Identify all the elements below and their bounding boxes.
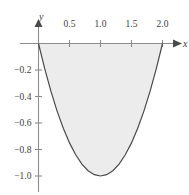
x-tick-label: 0.5 (64, 19, 76, 29)
y-tick-label: −0.6 (14, 118, 31, 128)
y-tick-label: −0.2 (14, 65, 31, 75)
x-tick-label: 1.5 (126, 19, 138, 29)
y-tick-label: −0.4 (14, 92, 31, 102)
y-tick-label: −1.0 (14, 171, 31, 181)
x-axis-label: x (183, 38, 187, 49)
y-tick-label: −0.8 (14, 145, 31, 155)
y-axis-label: y (39, 11, 43, 22)
x-tick-label: 1.0 (95, 19, 107, 29)
x-tick-label: 2.0 (157, 19, 169, 29)
x-axis-arrow-icon (173, 40, 182, 48)
figure-container: 0.51.01.52.0 −0.2−0.4−0.6−0.8−1.0 x y (0, 0, 189, 195)
